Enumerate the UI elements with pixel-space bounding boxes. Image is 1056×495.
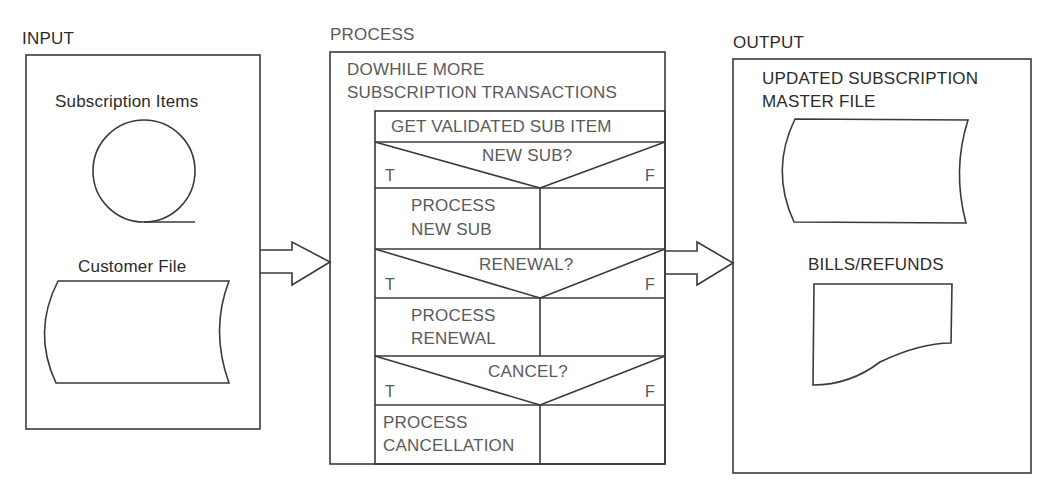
first-step-label: GET VALIDATED SUB ITEM [391, 116, 612, 138]
decision-condition: NEW SUB? [482, 145, 572, 167]
true-action-line1: PROCESS [411, 195, 496, 217]
magnetic-tape-icon [93, 120, 195, 222]
true-action-line2: CANCELLATION [383, 435, 515, 457]
true-action-line2: RENEWAL [411, 328, 496, 350]
stored-data-icon [782, 119, 968, 223]
decision-condition: CANCEL? [488, 361, 568, 383]
true-action-line2: NEW SUB [411, 219, 492, 241]
true-action-line1: PROCESS [383, 412, 468, 434]
decision-condition: RENEWAL? [479, 254, 574, 276]
customer-file-label: Customer File [78, 256, 186, 278]
true-action-line1: PROCESS [411, 305, 496, 327]
output-title: OUTPUT [733, 32, 804, 54]
decision-true-label: T [385, 274, 395, 296]
document-icon [813, 284, 952, 385]
bills-refunds-label: BILLS/REFUNDS [808, 254, 944, 276]
decision-false-label: F [645, 381, 655, 403]
loop-label-line1: DOWHILE MORE [347, 59, 484, 81]
loop-label-line2: SUBSCRIPTION TRANSACTIONS [347, 82, 617, 104]
arrow-input-to-process-icon [260, 242, 330, 285]
decision-true-label: T [385, 165, 395, 187]
master-file-label-line2: MASTER FILE [762, 91, 876, 113]
decision-false-label: F [645, 165, 655, 187]
master-file-label-line1: UPDATED SUBSCRIPTION [762, 68, 978, 90]
arrow-process-to-output-icon [665, 242, 733, 285]
decision-true-label: T [385, 381, 395, 403]
subscription-items-label: Subscription Items [55, 91, 198, 113]
process-title: PROCESS [330, 24, 415, 46]
input-title: INPUT [22, 28, 74, 50]
stored-data-icon [44, 281, 229, 383]
decision-false-label: F [645, 274, 655, 296]
